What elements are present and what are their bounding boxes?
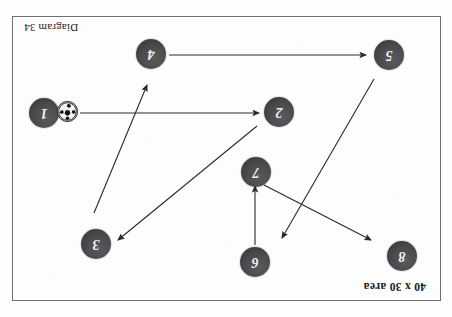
player-number: 5 xyxy=(386,48,393,62)
player-marker-5: 5 xyxy=(374,40,404,70)
player-marker-3: 3 xyxy=(81,229,111,259)
player-marker-4: 4 xyxy=(136,39,166,69)
soccer-ball-pattern xyxy=(59,103,78,122)
player-number: 1 xyxy=(41,106,48,120)
area-label: 40 x 30 area xyxy=(364,281,426,293)
player-marker-1: 1 xyxy=(29,98,59,128)
player-number: 3 xyxy=(93,237,100,251)
player-marker-2: 2 xyxy=(264,97,294,127)
player-marker-8: 8 xyxy=(387,241,417,271)
player-marker-6: 6 xyxy=(240,247,270,277)
player-number: 6 xyxy=(252,255,259,269)
player-marker-7: 7 xyxy=(241,157,271,187)
player-number: 8 xyxy=(399,249,406,263)
diagram-rotator: 40 x 30 area Diagram 34 12345678 xyxy=(0,0,452,317)
player-number: 7 xyxy=(253,165,260,179)
player-number: 4 xyxy=(148,47,155,61)
diagram-label: Diagram 34 xyxy=(24,22,78,34)
scanned-page: 40 x 30 area Diagram 34 12345678 xyxy=(0,0,452,317)
player-number: 2 xyxy=(276,105,283,119)
